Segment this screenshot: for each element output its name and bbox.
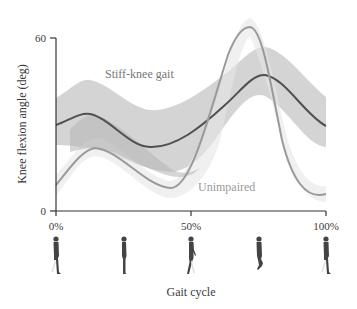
y-tick-label-0: 0 [41,205,47,217]
knee-flexion-chart: 60 0 0% 50% 100% Knee flexion angle (deg… [0,0,357,309]
x-tick-label-100: 100% [313,220,339,232]
x-axis-label: Gait cycle [167,285,216,299]
x-tick-label-50: 50% [181,220,201,232]
walking-figure-50-icon [187,236,196,274]
unimpaired-label: Unimpaired [198,180,255,194]
stiff-knee-label: Stiff-knee gait [105,67,174,81]
walking-figure-75-icon [256,236,263,270]
x-tick-label-0: 0% [49,220,64,232]
y-axis-label: Knee flexion angle (deg) [15,64,29,184]
walking-figure-25-icon [121,236,126,274]
walking-figure-0-icon [51,236,61,274]
y-tick-label-60: 60 [35,32,47,44]
walking-figure-100-icon [321,236,331,274]
